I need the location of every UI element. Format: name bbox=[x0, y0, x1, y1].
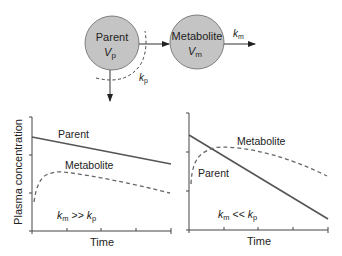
y-axis-label: Plasma concentration bbox=[12, 119, 24, 225]
metabolite-series-label: Metabolite bbox=[65, 159, 114, 171]
parent-series-label: Parent bbox=[198, 167, 229, 179]
parent-label: Parent bbox=[96, 31, 128, 43]
chart-km-less: Metabolite Parent km<<kp Time bbox=[186, 113, 328, 247]
parent-compartment bbox=[85, 16, 139, 70]
metabolite-series-label: Metabolite bbox=[237, 135, 286, 147]
metabolite-label: Metabolite bbox=[172, 30, 223, 42]
metabolite-curve bbox=[34, 172, 170, 202]
chart-km-greater: Plasma concentration Parent Metabolite k… bbox=[12, 117, 171, 248]
km-label: km bbox=[233, 28, 244, 40]
kp-label: kp bbox=[139, 72, 148, 85]
compartment-model: Parent Vp Metabolite Vm km kp bbox=[85, 15, 255, 101]
parent-series-label: Parent bbox=[58, 128, 89, 140]
x-axis-label: Time bbox=[247, 235, 271, 247]
metabolite-compartment bbox=[170, 15, 224, 69]
pk-diagram: Parent Vp Metabolite Vm km kp Plasma con… bbox=[0, 0, 342, 256]
rate-annotation: km>>kp bbox=[57, 209, 96, 223]
x-axis-label: Time bbox=[90, 236, 114, 248]
rate-annotation: km<<kp bbox=[218, 208, 257, 222]
